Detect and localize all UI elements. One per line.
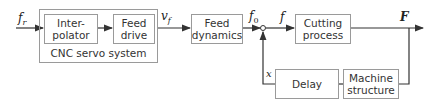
signal-fr: fr bbox=[18, 11, 26, 27]
summing-junction bbox=[261, 26, 266, 31]
signal-f0: f0 bbox=[249, 9, 259, 25]
feed-drive-block: Feed drive bbox=[113, 14, 155, 44]
cutting-process-block: Cutting process bbox=[295, 14, 351, 44]
signal-force: F bbox=[400, 10, 409, 24]
feed-dynamics-block: Feed dynamics bbox=[191, 14, 243, 44]
signal-vf: vf bbox=[161, 9, 171, 25]
cnc-servo-system-label: CNC servo system bbox=[39, 47, 158, 59]
machine-structure-block: Machine structure bbox=[343, 69, 399, 99]
signal-f: f bbox=[280, 10, 284, 24]
interpolator-block: Inter- polator bbox=[44, 14, 98, 44]
signal-x: x bbox=[266, 68, 272, 79]
delay-block: Delay bbox=[275, 69, 339, 99]
